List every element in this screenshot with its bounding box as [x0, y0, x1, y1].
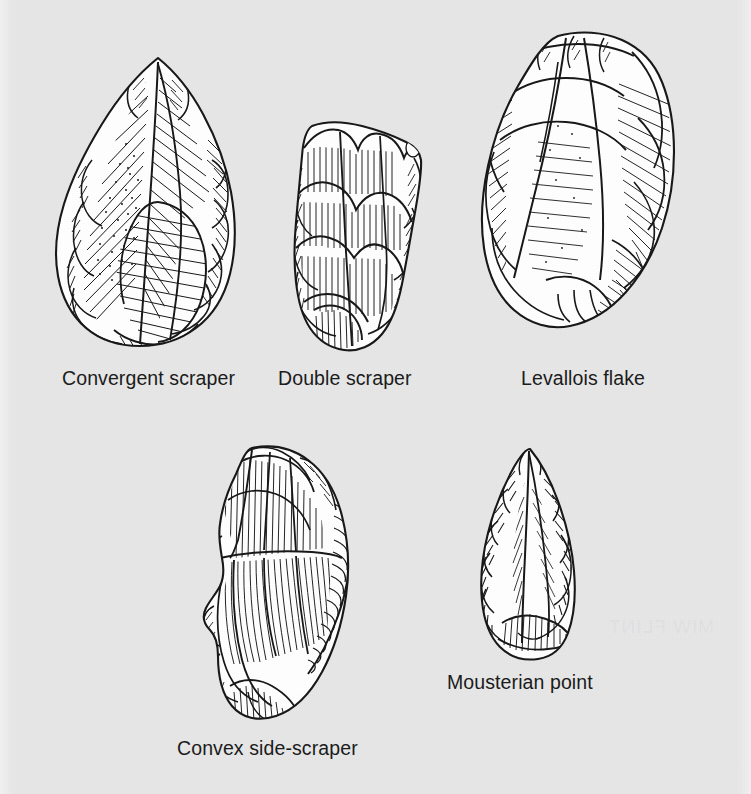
artifact-drawing-double-scraper: [278, 112, 448, 360]
caption-convergent-scraper: Convergent scraper: [62, 369, 235, 389]
caption-mousterian-point: Mousterian point: [447, 673, 593, 693]
artifact-drawing-convergent-scraper: [40, 52, 280, 354]
caption-convex-side-scraper: Convex side-scraper: [177, 739, 358, 759]
artifact-drawing-convex-side-scraper: [186, 440, 382, 728]
caption-levallois-flake: Levallois flake: [521, 369, 645, 389]
figure-plate: MIW FLINT: [0, 0, 751, 794]
artifact-drawing-mousterian-point: [458, 443, 604, 665]
artifact-drawing-levallois-flake: [462, 22, 694, 360]
caption-double-scraper: Double scraper: [278, 369, 412, 389]
